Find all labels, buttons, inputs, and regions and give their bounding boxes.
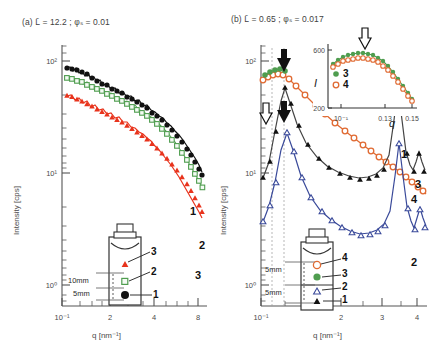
- panel-b-curve-label-1: 1: [401, 148, 407, 160]
- panel-b-series-2: [260, 130, 428, 238]
- panel-b-xtick-1: 2: [339, 313, 343, 322]
- panel-a-series-2: [65, 76, 205, 190]
- panel-a-xtick-1: 2: [108, 313, 112, 322]
- panel-b-inset-legend-label-3: 3: [343, 68, 349, 79]
- panel-b-inset-legend-label-4: 4: [343, 79, 349, 90]
- panel-b: (b) L̄ = 0.65 ; φₛ = 0.017 Intensity [cp…: [213, 0, 432, 362]
- panel-b-inset-dim-bottom: 5mm: [265, 288, 282, 297]
- panel-b-curve-label-4: 4: [411, 193, 417, 205]
- panel-a-ytick-2: 10⁰: [46, 281, 57, 290]
- panel-b-inset-xtick-0: 10⁻¹: [334, 115, 349, 122]
- panel-b-inset-xtick-2: 0.15: [405, 115, 419, 122]
- panel-b-title: (b) L̄ = 0.65 ; φₛ = 0.017: [231, 14, 324, 24]
- panel-a-y-axis-label: Intensity [cps]: [12, 186, 21, 235]
- panel-a-inset-label-3: 3: [151, 246, 157, 257]
- panel-b-inset-legend-marker-4: [333, 82, 339, 88]
- panel-a-curve-label-1: 1: [190, 205, 196, 217]
- panel-b-curve-label-2: 2: [411, 256, 417, 268]
- panel-a-inset-dim-top: 10mm: [68, 276, 89, 285]
- panel-b-arrow-filled-2: [277, 101, 291, 123]
- panel-b-x-ticks: 10⁻¹ 2 3 4: [254, 313, 420, 322]
- panel-b-inset-label-1: 1: [342, 294, 348, 305]
- panel-a-x-ticks: 10⁻¹ 2 4 8: [55, 313, 201, 322]
- panel-a-xtick-3: 8: [196, 313, 200, 322]
- panel-a-xtick-0: 10⁻¹: [55, 313, 70, 322]
- panel-a-inset-label-2: 2: [151, 266, 157, 277]
- panel-a-y-ticks: 10² 10¹ 10⁰: [46, 57, 58, 290]
- panel-b-ytick-1: 10¹: [245, 169, 256, 178]
- panel-b-inset-y-axis-label: I: [314, 77, 317, 89]
- panel-b-ytick-0: 10²: [245, 57, 256, 66]
- panel-b-inset-dim-top: 5mm: [265, 265, 282, 274]
- panel-a-curve-label-3: 3: [195, 269, 201, 281]
- panel-a: (a) L̄ = 12.2 ; φₛ = 0.01 Intensity [cps…: [0, 0, 216, 362]
- panel-b-inset-label-2: 2: [342, 281, 348, 292]
- panel-b-cuvette-inset: [285, 229, 341, 310]
- panel-a-ytick-1: 10¹: [46, 169, 57, 178]
- panel-b-arrow-open-1: [260, 103, 272, 124]
- panel-b-inset-x-axis-label: q: [389, 117, 395, 129]
- panel-b-inset-label-4: 4: [342, 252, 348, 263]
- panel-b-inset-ytick-1: 200: [313, 105, 325, 112]
- panel-a-cuvette-inset: [96, 224, 152, 305]
- panel-a-ytick-0: 10²: [46, 57, 57, 66]
- panel-a-x-axis-label: q [nm⁻¹]: [92, 331, 121, 340]
- panel-b-ytick-2: 10⁰: [245, 281, 256, 290]
- panel-b-inset-label-3: 3: [342, 268, 348, 279]
- panel-b-xtick-0: 10⁻¹: [254, 313, 269, 322]
- panel-b-xtick-3: 4: [415, 313, 419, 322]
- panel-b-plot: 10² 10¹ 10⁰ 10⁻¹ 2 3 4: [213, 0, 432, 362]
- panel-b-x-axis-label: q [nm⁻¹]: [313, 331, 342, 340]
- panel-b-y-ticks: 10² 10¹ 10⁰: [245, 57, 257, 290]
- panel-b-xtick-2: 3: [380, 313, 384, 322]
- panel-b-y-axis-label: Intensity [cps]: [219, 186, 228, 235]
- panel-a-title: (a) L̄ = 12.2 ; φₛ = 0.01: [22, 17, 110, 27]
- panel-b-inset-legend-marker-3: [333, 71, 339, 77]
- panel-b-inset-plot: 600 200 10⁻¹ 0.13 0.15: [313, 28, 419, 122]
- panel-a-inset-label-1: 1: [153, 289, 159, 300]
- panel-b-inset-ytick-0: 600: [313, 47, 325, 54]
- panel-a-plot: 10² 10¹ 10⁰ 10⁻¹ 2 4 8: [0, 0, 216, 362]
- panel-b-curve-label-3: 3: [415, 178, 421, 190]
- panel-a-inset-dim-bottom: 5mm: [73, 289, 90, 298]
- figure-root: (a) L̄ = 12.2 ; φₛ = 0.01 Intensity [cps…: [0, 0, 432, 362]
- panel-a-curve-label-2: 2: [199, 239, 205, 251]
- panel-a-xtick-2: 4: [152, 313, 156, 322]
